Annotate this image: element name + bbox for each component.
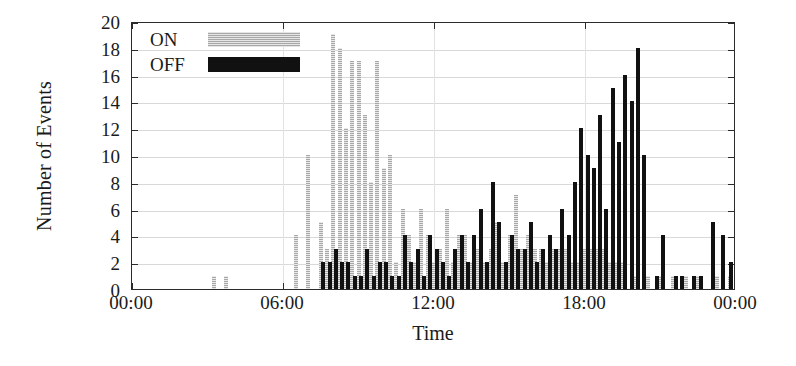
x-tick-label: 06:00 [260,293,303,314]
bar-on [388,155,392,289]
bar-off [611,88,615,289]
bar-off [523,249,527,289]
bar-off [604,209,608,289]
bar-off [573,182,577,289]
y-tick-mark [132,211,138,212]
bar-off [541,249,545,289]
bar-off [340,262,344,289]
bar-off [466,262,470,289]
y-tick-label: 16 [60,66,126,85]
bar-off [529,222,533,289]
plot-area: ONOFF [131,22,735,290]
y-tick-mark [728,23,734,24]
bar-off [428,235,432,289]
bar-off [636,48,640,289]
bar-off [334,249,338,289]
bar-on [350,61,354,289]
x-axis-tick-labels: 00:0006:0012:0018:0000:00 [131,293,735,319]
legend-label-on: ON [150,29,208,51]
bar-on [357,61,361,289]
bar-off [384,262,388,289]
y-tick-mark [728,50,734,51]
bar-on [212,276,216,289]
x-tick-mark [283,283,284,289]
bar-off [592,168,596,289]
bar-on [375,61,379,289]
bar-off [655,276,659,289]
bar-off [504,262,508,289]
bar-on [338,48,342,289]
bar-off [623,75,627,289]
bar-off [416,249,420,289]
bar-off [390,276,394,289]
y-tick-mark [132,237,138,238]
horizontal-gridline [132,103,734,104]
bar-off [554,249,558,289]
x-tick-mark [132,283,133,289]
y-tick-mark [132,130,138,131]
y-tick-mark [132,103,138,104]
bar-off [328,262,332,289]
chart-figure: Number of Events 02468101214161820 ONOFF… [0,0,796,366]
bar-on [294,235,298,289]
y-tick-mark [728,157,734,158]
legend-label-off: OFF [150,54,208,76]
legend-swatch-on [208,32,300,47]
legend-item-off[interactable]: OFF [150,52,390,77]
bar-off [711,222,715,289]
bar-off [353,276,357,289]
bar-off [729,262,733,289]
bar-off [409,262,413,289]
bar-off [630,101,634,289]
bar-off [548,235,552,289]
bar-off [598,115,602,289]
y-tick-mark [132,77,138,78]
bar-off [485,262,489,289]
y-tick-label: 14 [60,93,126,112]
y-tick-mark [132,157,138,158]
bar-off [535,262,539,289]
legend-item-on[interactable]: ON [150,27,390,52]
legend-swatch-off [208,57,300,72]
y-tick-mark [132,184,138,185]
y-tick-label: 12 [60,120,126,139]
y-axis-tick-labels: 02468101214161820 [60,22,126,290]
x-tick-label: 00:00 [713,293,756,314]
x-tick-mark [434,23,435,29]
y-tick-mark [728,77,734,78]
bar-off [692,276,696,289]
y-tick-mark [132,264,138,265]
bar-on [224,276,228,289]
bar-off [422,276,426,289]
x-tick-label: 00:00 [109,293,152,314]
bar-off [453,249,457,289]
bar-on [715,276,719,289]
bar-off [435,249,439,289]
bar-off [510,235,514,289]
bar-off [359,276,363,289]
x-axis-title: Time [131,322,735,345]
bar-off [321,262,325,289]
y-tick-label: 2 [60,254,126,273]
y-tick-mark [728,211,734,212]
bar-off [642,155,646,289]
bar-off [586,155,590,289]
x-tick-label: 12:00 [411,293,454,314]
horizontal-gridline [132,130,734,131]
y-tick-mark [728,103,734,104]
y-tick-mark [728,130,734,131]
x-tick-label: 18:00 [562,293,605,314]
bar-off [661,235,665,289]
bar-off [403,235,407,289]
bar-off [479,209,483,289]
y-tick-mark [728,237,734,238]
bar-off [579,128,583,289]
bar-off [721,235,725,289]
bar-on [646,276,650,289]
bar-off [346,262,350,289]
bar-off [516,249,520,289]
bar-off [617,142,621,289]
y-tick-mark [132,50,138,51]
bar-off [674,276,678,289]
y-tick-label: 4 [60,227,126,246]
